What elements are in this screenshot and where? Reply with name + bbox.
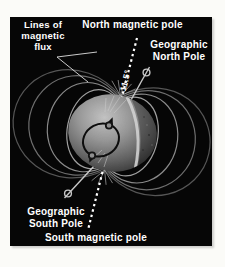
geographic-north-pole-label: Geographic North Pole — [142, 39, 216, 62]
south-magnetic-pole-label: South magnetic pole — [22, 232, 170, 244]
dipole-node-bottom — [89, 152, 95, 158]
dipole-node-top — [106, 122, 112, 128]
north-magnetic-pole-label: North magnetic pole — [65, 19, 200, 31]
earth-globe — [62, 87, 163, 178]
geographic-south-pole-label: Geographic South Pole — [14, 206, 98, 229]
diagram-panel: Lines of magnetic flux North magnetic po… — [10, 17, 212, 246]
